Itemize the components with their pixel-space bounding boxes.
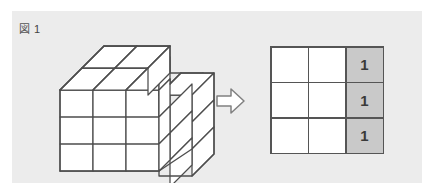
figure-label-number: 1 xyxy=(34,24,40,35)
grid-cell-r3c3: 1 xyxy=(347,119,383,153)
isometric-block-stack xyxy=(48,28,218,183)
grid-cell-r2c1 xyxy=(272,83,308,117)
grid-cell-r3c1 xyxy=(272,119,308,153)
grid-cell-r2c2 xyxy=(309,83,345,117)
block-stack-svg xyxy=(48,28,218,183)
right-arrow-svg xyxy=(214,85,248,117)
result-grid: 1 1 1 xyxy=(270,46,384,154)
right-arrow-icon xyxy=(214,85,248,117)
grid-cell-r2c3: 1 xyxy=(347,83,383,117)
grid-cell-r1c3: 1 xyxy=(347,48,383,82)
figure-label: 図 1 xyxy=(19,24,40,35)
figure-illustration: 図 1 xyxy=(0,0,436,195)
grid-cell-r1c2 xyxy=(309,48,345,82)
grid-cell-r1c1 xyxy=(272,48,308,82)
grid-cell-r3c2 xyxy=(309,119,345,153)
figure-label-kanji: 図 xyxy=(19,24,30,35)
